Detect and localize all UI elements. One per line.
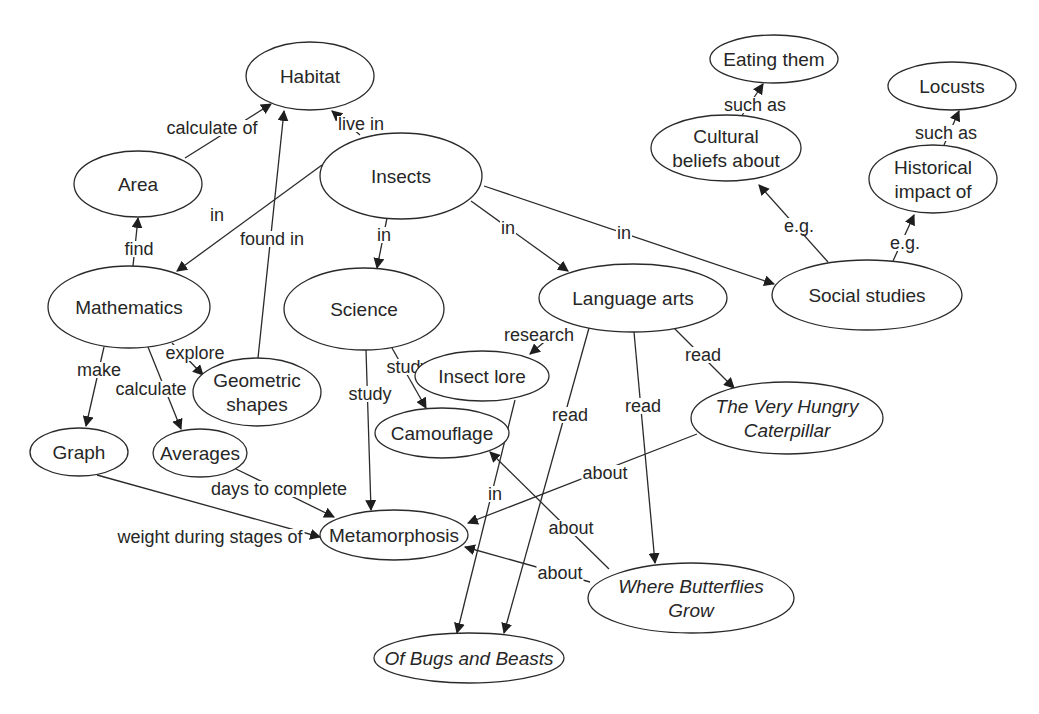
- edge-label: in: [376, 225, 392, 245]
- node-historical-impact: Historicalimpact of: [869, 145, 997, 213]
- edge-label-text: days to complete: [211, 479, 347, 499]
- edge-label: found in: [239, 229, 305, 249]
- node-label: Area: [118, 174, 159, 195]
- node-label: Social studies: [808, 285, 925, 306]
- node-metamorphosis: Metamorphosis: [320, 510, 468, 560]
- node-label: Averages: [160, 443, 240, 464]
- edge-label: study: [347, 384, 392, 404]
- edge-label-text: e.g.: [784, 216, 814, 236]
- node-label: Camouflage: [391, 423, 493, 444]
- edge-label-text: e.g.: [890, 233, 920, 253]
- edge-label: in: [616, 223, 632, 243]
- edge-label: calculate: [114, 379, 187, 399]
- edge-label: weight during stages of: [115, 527, 304, 547]
- edge-label: read: [624, 396, 662, 416]
- edge-label: make: [76, 360, 122, 380]
- node-very-hungry-caterpillar: The Very HungryCaterpillar: [691, 382, 883, 454]
- edge-label-text: explore: [165, 343, 224, 363]
- edge-label-text: in: [617, 223, 631, 243]
- edge-label-text: such as: [915, 123, 977, 143]
- node-mathematics: Mathematics: [48, 266, 210, 348]
- edge-label-text: research: [504, 325, 574, 345]
- edge-label: in: [500, 218, 516, 238]
- edge-label: in: [209, 205, 225, 225]
- edge-label-text: weight during stages of: [116, 527, 303, 547]
- concept-map: live incalculate offound infindinininine…: [0, 0, 1039, 714]
- node-label: Where Butterflies: [618, 576, 764, 597]
- edge-label-text: about: [537, 563, 582, 583]
- node-label: impact of: [894, 181, 972, 202]
- edge-label: about: [581, 463, 628, 483]
- edge-labels-layer: live incalculate offound infindinininine…: [76, 95, 978, 583]
- edge-label: about: [536, 563, 583, 583]
- edge-label: read: [684, 345, 722, 365]
- edge-label-text: in: [501, 218, 515, 238]
- node-label: Eating them: [723, 49, 824, 70]
- edge-label-text: make: [77, 360, 121, 380]
- node-insects: Insects: [320, 133, 482, 219]
- edge-mathematics-to-graph: [86, 347, 104, 426]
- node-ellipse: [691, 382, 883, 454]
- edge-label: e.g.: [889, 233, 921, 253]
- edge-label: e.g.: [783, 216, 815, 236]
- edge-label: live in: [337, 114, 385, 134]
- arrow-line: [86, 347, 104, 426]
- edge-label-text: calculate: [115, 379, 186, 399]
- node-graph: Graph: [30, 428, 128, 476]
- edge-label-text: in: [210, 205, 224, 225]
- node-language-arts: Language arts: [539, 264, 727, 332]
- edge-label: such as: [914, 123, 978, 143]
- node-label: Science: [330, 299, 398, 320]
- edge-label: find: [123, 239, 154, 259]
- edge-label-text: live in: [338, 114, 384, 134]
- node-science: Science: [284, 268, 444, 350]
- edge-label: about: [547, 518, 594, 538]
- node-ellipse: [193, 358, 321, 426]
- edge-label-text: in: [377, 225, 391, 245]
- edge-label-text: read: [625, 396, 661, 416]
- node-ellipse: [588, 563, 794, 633]
- node-cultural-beliefs: Culturalbeliefs about: [651, 115, 801, 181]
- edge-label-text: found in: [240, 229, 304, 249]
- edge-label: read: [551, 405, 589, 425]
- node-label: Graph: [53, 442, 106, 463]
- arrow-line: [634, 332, 655, 563]
- node-geometric-shapes: Geometricshapes: [193, 358, 321, 426]
- node-label: Insects: [371, 166, 431, 187]
- edge-label: explore: [164, 343, 225, 363]
- node-label: Grow: [668, 600, 715, 621]
- node-label: Habitat: [280, 66, 341, 87]
- node-label: The Very Hungry: [716, 396, 860, 417]
- edge-label-text: about: [582, 463, 627, 483]
- node-averages: Averages: [153, 429, 247, 477]
- node-social-studies: Social studies: [772, 260, 962, 330]
- node-label: Cultural: [693, 126, 758, 147]
- edge-label-text: such as: [724, 95, 786, 115]
- edge-label-text: read: [552, 405, 588, 425]
- edge-label-text: study: [348, 384, 391, 404]
- edge-label: research: [503, 325, 575, 345]
- node-label: Mathematics: [75, 297, 183, 318]
- node-label: Caterpillar: [744, 420, 831, 441]
- node-insect-lore: Insect lore: [415, 351, 549, 401]
- edge-label-text: calculate of: [166, 118, 258, 138]
- node-label: Of Bugs and Beasts: [385, 648, 554, 669]
- node-label: Language arts: [572, 288, 694, 309]
- node-area: Area: [74, 151, 202, 217]
- node-eating-them: Eating them: [710, 35, 838, 83]
- node-label: Metamorphosis: [329, 525, 459, 546]
- edge-label: in: [487, 484, 503, 504]
- edge-label-text: in: [488, 484, 502, 504]
- node-ellipse: [869, 145, 997, 213]
- node-locusts: Locusts: [888, 62, 1016, 110]
- node-label: Locusts: [919, 76, 984, 97]
- edge-science-to-metamorphosis: [366, 350, 371, 510]
- node-of-bugs-and-beasts: Of Bugs and Beasts: [374, 633, 564, 683]
- edge-insects-to-language-arts: [471, 201, 568, 271]
- edge-label-text: find: [124, 239, 153, 259]
- node-label: beliefs about: [672, 150, 780, 171]
- edge-label-text: read: [685, 345, 721, 365]
- edge-label-text: about: [548, 518, 593, 538]
- edge-label: days to complete: [210, 479, 348, 499]
- node-label: Geometric: [213, 370, 301, 391]
